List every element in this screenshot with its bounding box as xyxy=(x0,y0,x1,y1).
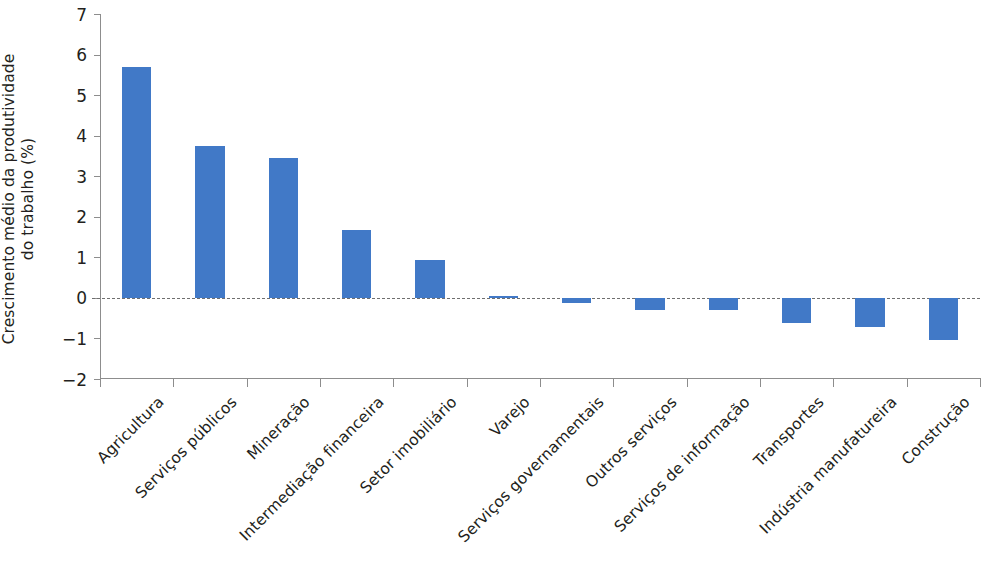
bar xyxy=(342,230,371,298)
bar xyxy=(489,296,518,298)
x-axis-label: Transportes xyxy=(673,393,827,547)
x-tick xyxy=(687,378,688,387)
plot-area: 76543210−1−2 xyxy=(100,14,980,379)
y-tick-label: 6 xyxy=(76,45,87,65)
y-tick: −1 xyxy=(94,338,101,339)
y-tick-label: 7 xyxy=(76,5,87,25)
x-tick xyxy=(907,378,908,387)
bar xyxy=(122,67,151,298)
x-axis-label: Intermediação financeira xyxy=(233,393,387,547)
y-tick: 3 xyxy=(94,176,101,177)
x-axis-label: Serviços governamentais xyxy=(453,393,607,547)
y-tick: 2 xyxy=(94,217,101,218)
y-tick: 6 xyxy=(94,55,101,56)
bar xyxy=(269,158,298,298)
x-axis-label: Varejo xyxy=(380,393,534,547)
x-axis-label: Outros serviços xyxy=(527,393,681,547)
y-axis-title: Crescimento médio da produtividade do tr… xyxy=(0,54,38,345)
y-tick-label: 3 xyxy=(76,167,87,187)
x-tick xyxy=(467,378,468,387)
x-axis-label: Serviços públicos xyxy=(87,393,241,547)
bar xyxy=(855,298,884,327)
y-tick-label: −2 xyxy=(62,370,87,390)
x-axis-label: Construção xyxy=(820,393,974,547)
x-tick xyxy=(247,378,248,387)
x-tick xyxy=(393,378,394,387)
y-tick: 7 xyxy=(94,14,101,15)
x-axis-label: Setor imobiliário xyxy=(307,393,461,547)
y-tick-label: 5 xyxy=(76,86,87,106)
x-tick xyxy=(173,378,174,387)
x-axis-label: Mineração xyxy=(160,393,314,547)
y-axis-line xyxy=(100,14,101,379)
bar-chart: Crescimento médio da produtividade do tr… xyxy=(0,0,995,573)
bar xyxy=(195,146,224,298)
x-tick xyxy=(980,378,981,387)
bar xyxy=(562,298,591,303)
x-tick xyxy=(320,378,321,387)
y-tick-label: 1 xyxy=(76,248,87,268)
bar xyxy=(635,298,664,310)
y-tick-label: −1 xyxy=(62,329,87,349)
bar xyxy=(709,298,738,310)
x-tick xyxy=(760,378,761,387)
y-tick: 4 xyxy=(94,136,101,137)
bar xyxy=(929,298,958,341)
x-axis-label: Serviços de informação xyxy=(600,393,754,547)
x-tick xyxy=(833,378,834,387)
x-tick xyxy=(100,378,101,387)
y-tick: 1 xyxy=(94,257,101,258)
bar xyxy=(415,260,444,298)
y-tick-label: 4 xyxy=(76,126,87,146)
y-tick-label: 2 xyxy=(76,207,87,227)
x-axis-label: Indústria manufatureira xyxy=(747,393,901,547)
y-tick-label: 0 xyxy=(76,288,87,308)
bar xyxy=(782,298,811,323)
x-axis-label: Agricultura xyxy=(13,393,167,547)
x-tick xyxy=(540,378,541,387)
x-tick xyxy=(613,378,614,387)
y-axis-title-container: Crescimento médio da produtividade do tr… xyxy=(0,0,60,400)
y-tick: 5 xyxy=(94,95,101,96)
zero-reference-line xyxy=(92,298,980,299)
